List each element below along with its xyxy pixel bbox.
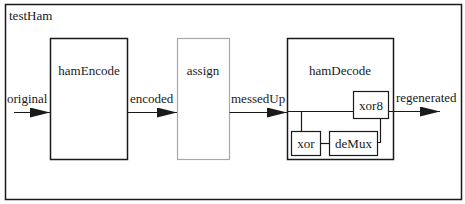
block-xor-label: xor (297, 136, 315, 151)
testham-diagram: testHam hamEncode assign hamDecode (0, 0, 465, 204)
block-xor8[interactable]: xor8 (354, 92, 389, 119)
signal-messedup[interactable]: messedUp (230, 91, 288, 113)
block-assign[interactable]: assign (178, 39, 230, 160)
signal-encoded-label: encoded (130, 91, 174, 106)
block-hamencode[interactable]: hamEncode (51, 39, 128, 160)
block-demux[interactable]: deMux (330, 132, 378, 156)
signal-encoded[interactable]: encoded (128, 91, 178, 113)
block-assign-label: assign (187, 63, 220, 78)
block-xor8-label: xor8 (359, 98, 383, 113)
block-demux-label: deMux (335, 136, 372, 151)
signal-regenerated[interactable]: regenerated (389, 90, 458, 112)
block-xor[interactable]: xor (292, 132, 321, 156)
signal-original-label: original (7, 91, 48, 106)
block-hamdecode-label: hamDecode (309, 63, 371, 78)
block-hamdecode[interactable]: hamDecode xor8 xor deMux (288, 39, 394, 160)
signal-messedup-label: messedUp (231, 91, 285, 106)
module-title: testHam (9, 8, 52, 23)
signal-regenerated-label: regenerated (396, 90, 457, 105)
signal-original[interactable]: original (7, 91, 50, 113)
block-hamencode-label: hamEncode (58, 63, 120, 78)
